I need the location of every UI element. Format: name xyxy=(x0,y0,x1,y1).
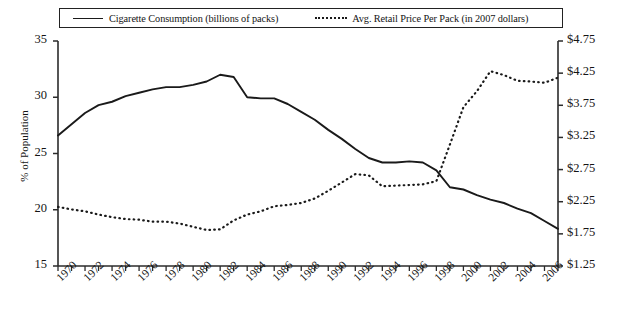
y-tick-label-right: $2.75 xyxy=(567,161,619,176)
y-tick-label-right: $4.25 xyxy=(567,64,619,79)
y-tick-label-left: 25 xyxy=(13,145,47,160)
y-tick-label-right: $1.25 xyxy=(567,257,619,272)
y-tick-label-left: 35 xyxy=(13,32,47,47)
y-tick-label-right: $1.75 xyxy=(567,225,619,240)
legend-item-price: Avg. Retail Price Per Pack (in 2007 doll… xyxy=(315,13,528,24)
legend-label-price: Avg. Retail Price Per Pack (in 2007 doll… xyxy=(352,13,528,24)
legend-label-consumption: Cigarette Consumption (billions of packs… xyxy=(109,13,278,24)
y-tick-label-left: 30 xyxy=(13,88,47,103)
series-line-consumption xyxy=(58,75,558,229)
chart-legend: Cigarette Consumption (billions of packs… xyxy=(59,8,563,28)
chart-figure: Cigarette Consumption (billions of packs… xyxy=(0,0,625,315)
y-tick-label-right: $3.75 xyxy=(567,96,619,111)
dotted-line-swatch-icon xyxy=(315,17,347,19)
solid-line-swatch-icon xyxy=(73,18,103,19)
y-tick-label-right: $4.75 xyxy=(567,32,619,47)
y-tick-label-right: $3.25 xyxy=(567,128,619,143)
legend-item-consumption: Cigarette Consumption (billions of packs… xyxy=(73,13,278,24)
y-tick-label-right: $2.25 xyxy=(567,193,619,208)
y-tick-label-left: 15 xyxy=(13,257,47,272)
y-tick-label-left: 20 xyxy=(13,201,47,216)
